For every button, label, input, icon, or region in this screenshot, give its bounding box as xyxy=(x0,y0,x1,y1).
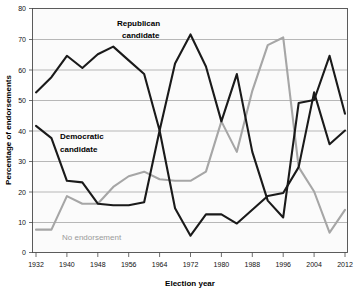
x-tick-label-1948: 1948 xyxy=(90,261,106,268)
x-tick-label-1996: 1996 xyxy=(275,261,291,268)
y-tick-label-30: 30 xyxy=(18,158,26,165)
y-tick-label-40: 40 xyxy=(18,128,26,135)
y-tick-labels: 80 70 60 50 40 30 20 10 0 xyxy=(18,5,26,256)
x-tick-label-1980: 1980 xyxy=(214,261,230,268)
x-tick-label-1964: 1964 xyxy=(152,261,168,268)
y-tick-label-50: 50 xyxy=(18,97,26,104)
y-tick-label-80: 80 xyxy=(18,5,26,12)
no-endorsement-label: No endorsement xyxy=(62,233,122,242)
democratic-label-line2: candidate xyxy=(60,145,98,154)
republican-label-line2: candidate xyxy=(122,31,160,40)
x-tick-label-2004: 2004 xyxy=(306,261,322,268)
y-tick-label-60: 60 xyxy=(18,67,26,74)
endorsements-line-chart: 80 70 60 50 40 30 20 10 0 1932 1940 xyxy=(0,0,356,291)
plot-area xyxy=(33,9,348,253)
x-tick-label-1956: 1956 xyxy=(121,261,137,268)
republican-label-line1: Republican xyxy=(117,19,160,28)
chart-container: 80 70 60 50 40 30 20 10 0 1932 1940 xyxy=(0,0,356,291)
y-tick-label-70: 70 xyxy=(18,36,26,43)
x-tick-label-1940: 1940 xyxy=(59,261,75,268)
democratic-label-line1: Democratic xyxy=(60,132,104,141)
x-axis-title: Election year xyxy=(165,279,215,288)
no-endorsement-label-line1: No endorsement xyxy=(62,233,122,242)
x-tick-label-1932: 1932 xyxy=(28,261,44,268)
y-axis-title: Percentage of endorsements xyxy=(4,75,13,185)
y-tick-label-10: 10 xyxy=(18,219,26,226)
y-tick-label-20: 20 xyxy=(18,189,26,196)
y-tick-label-0: 0 xyxy=(22,249,26,256)
x-tick-label-1988: 1988 xyxy=(245,261,261,268)
x-tick-label-1972: 1972 xyxy=(183,261,199,268)
x-tick-label-2012: 2012 xyxy=(337,261,353,268)
